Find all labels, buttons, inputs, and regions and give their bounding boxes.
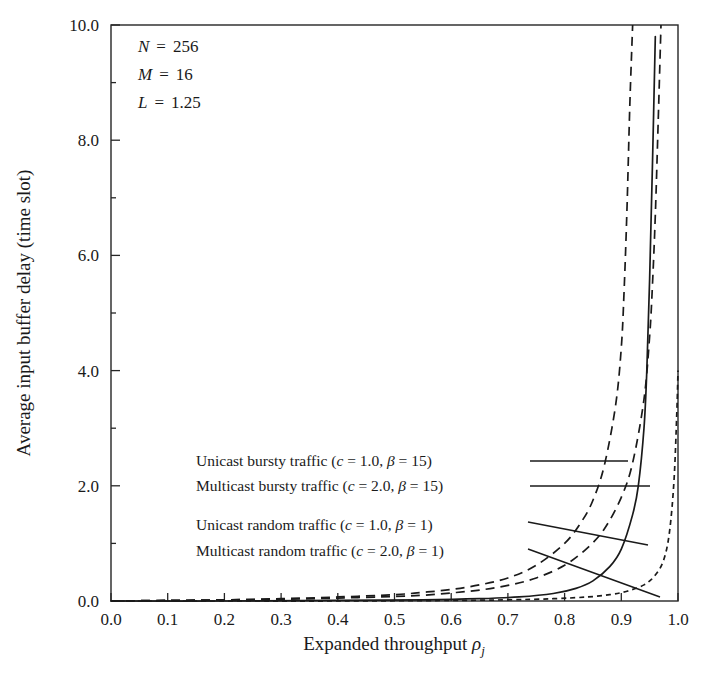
x-tick-label-0.3: 0.3	[270, 610, 291, 629]
chart-figure: 0.00.10.20.30.40.50.60.70.80.91.0 0.02.0…	[0, 0, 708, 684]
x-tick-label-0.0: 0.0	[100, 610, 121, 629]
legend-label-unicast-bursty: Unicast bursty traffic (c = 1.0, β = 15)	[196, 452, 432, 470]
annotation-N-eq: =	[156, 37, 166, 56]
x-tick-label-0.6: 0.6	[441, 610, 462, 629]
x-axis-tick-labels: 0.00.10.20.30.40.50.60.70.80.91.0	[100, 610, 688, 629]
parameter-annotations: N=256 M=16 L=1.25	[137, 37, 201, 112]
x-tick-label-0.4: 0.4	[327, 610, 349, 629]
legend-1-beta-symbol: β	[397, 477, 406, 494]
legend-3-beta-value: = 1)	[415, 542, 444, 560]
annotation-L-value: 1.25	[171, 93, 201, 112]
y-tick-label-2.0: 2.0	[78, 477, 99, 496]
legend-1-c-value: = 2.0,	[355, 477, 399, 494]
legend-0-beta-value: = 15)	[395, 452, 432, 470]
y-tick-label-4.0: 4.0	[78, 362, 99, 381]
y-axis-tick-labels: 0.02.04.06.08.010.0	[69, 16, 99, 611]
x-axis-title: Expanded throughput ρj	[303, 633, 485, 658]
annotation-M: M=16	[137, 65, 193, 84]
legend-3-prefix: Multicast random traffic (	[196, 542, 356, 560]
legend-2-beta-symbol: β	[395, 516, 404, 533]
x-tick-label-0.7: 0.7	[497, 610, 519, 629]
y-axis-title: Average input buffer delay (time slot)	[13, 170, 35, 457]
annotation-N: N=256	[137, 37, 198, 56]
legend-group: Unicast bursty traffic (c = 1.0, β = 15)…	[196, 452, 660, 597]
legend-1-beta-value: = 15)	[406, 477, 443, 495]
legend-0-prefix: Unicast bursty traffic (	[196, 452, 336, 470]
legend-2-beta-value: = 1)	[403, 516, 432, 534]
x-tick-label-0.5: 0.5	[384, 610, 405, 629]
y-tick-label-8.0: 8.0	[78, 131, 99, 150]
legend-2-c-value: = 1.0,	[352, 516, 396, 533]
annotation-L-eq: =	[154, 93, 164, 112]
legend-label-multicast-bursty: Multicast bursty traffic (c = 2.0, β = 1…	[196, 477, 443, 495]
annotation-L: L=1.25	[137, 93, 201, 112]
x-tick-label-0.9: 0.9	[611, 610, 632, 629]
legend-0-beta-symbol: β	[386, 452, 395, 469]
annotation-N-symbol: N	[137, 37, 151, 56]
x-tick-label-1.0: 1.0	[667, 610, 688, 629]
x-axis-title-main: Expanded throughput	[303, 633, 472, 654]
annotation-L-symbol: L	[137, 93, 147, 112]
legend-1-prefix: Multicast bursty traffic (	[196, 477, 348, 495]
y-tick-label-10.0: 10.0	[69, 16, 99, 35]
x-axis-title-rho: ρ	[471, 633, 481, 654]
annotation-M-value: 16	[176, 65, 193, 84]
chart-svg: 0.00.10.20.30.40.50.60.70.80.91.0 0.02.0…	[0, 0, 708, 684]
legend-0-c-value: = 1.0,	[343, 452, 387, 469]
legend-label-unicast-random: Unicast random traffic (c = 1.0, β = 1)	[196, 516, 433, 534]
x-tick-label-0.2: 0.2	[214, 610, 235, 629]
y-axis-ticks	[111, 25, 120, 601]
x-tick-label-0.1: 0.1	[157, 610, 178, 629]
annotation-N-value: 256	[173, 37, 199, 56]
annotation-M-symbol: M	[137, 65, 153, 84]
legend-2-prefix: Unicast random traffic (	[196, 516, 345, 534]
legend-3-beta-symbol: β	[406, 542, 415, 559]
annotation-M-eq: =	[159, 65, 169, 84]
legend-label-multicast-random: Multicast random traffic (c = 2.0, β = 1…	[196, 542, 444, 560]
y-tick-label-6.0: 6.0	[78, 246, 99, 265]
x-tick-label-0.8: 0.8	[554, 610, 575, 629]
y-tick-label-0.0: 0.0	[78, 592, 99, 611]
legend-3-c-value: = 2.0,	[363, 542, 407, 559]
